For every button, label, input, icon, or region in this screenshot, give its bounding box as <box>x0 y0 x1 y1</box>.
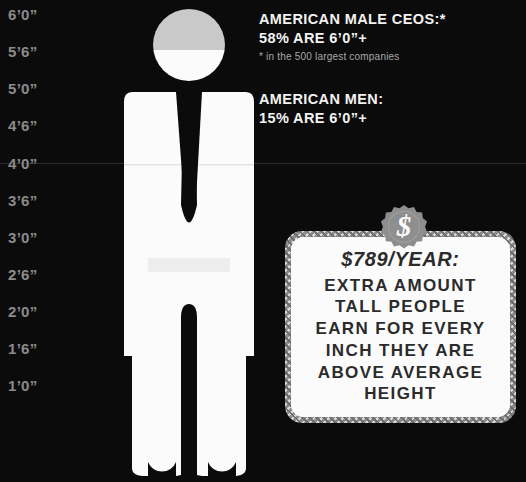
figure-right-foot-notch <box>208 462 236 482</box>
figure-left-arm-cut <box>110 356 132 482</box>
axis-tick-6-0: 6’0” <box>8 7 38 22</box>
axis-tick-4-6: 4’6” <box>8 118 38 133</box>
money-line-2: TALL PEOPLE <box>335 296 466 318</box>
figure-hips <box>124 258 254 272</box>
men-stat-title: AMERICAN MEN: <box>259 89 383 110</box>
money-line-3: EARN FOR EVERY <box>315 318 485 340</box>
axis-tick-5-6: 5’6” <box>8 44 38 59</box>
infographic-root: 6’0” 5’6” 5’0” 4’6” 4’0” 3’6” 3’0” 2’6” … <box>0 0 526 482</box>
figure-necktie <box>176 92 202 216</box>
axis-tick-3-0: 3’0” <box>8 230 38 245</box>
figure-leg-gap-lower <box>181 400 197 482</box>
figure-torso <box>124 92 254 258</box>
axis-tick-5-0: 5’0” <box>8 81 38 96</box>
figure-legs-block <box>132 272 246 474</box>
money-line-1: EXTRA AMOUNT <box>324 275 476 297</box>
figure-left-foot <box>132 440 186 476</box>
axis-tick-3-6: 3’6” <box>8 193 38 208</box>
badge-dollar-glyph: $ <box>396 210 412 242</box>
money-line-4: INCH THEY ARE <box>326 340 476 362</box>
figure-shoulder-gap <box>178 92 200 118</box>
axis-tick-4-0: 4’0” <box>8 156 38 171</box>
ceo-stat-title: AMERICAN MALE CEOS:* <box>259 9 446 30</box>
money-callout-box: $789/YEAR: EXTRA AMOUNT TALL PEOPLE EARN… <box>291 237 510 417</box>
money-line-5: ABOVE AVERAGE <box>318 362 484 384</box>
figure-collar-v <box>176 92 202 125</box>
axis-tick-2-0: 2’0” <box>8 304 38 319</box>
figure-legs-fill <box>132 272 246 462</box>
ceo-stat-value: 58% ARE 6’0”+ <box>259 28 367 49</box>
figure-head <box>150 5 230 95</box>
axis-tick-2-6: 2’6” <box>8 267 38 282</box>
figure-left-arm <box>124 258 148 356</box>
figure-hip-shade <box>124 258 254 272</box>
figure-right-foot <box>192 440 246 476</box>
ceo-stat-footnote: * in the 500 largest companies <box>259 51 400 62</box>
figure-right-arm-cut <box>246 356 270 482</box>
axis-tick-1-0: 1’0” <box>8 378 38 393</box>
figure-torso-shade <box>124 164 254 166</box>
men-stat-value: 15% ARE 6’0”+ <box>259 108 367 129</box>
figure-tie-body <box>181 112 197 223</box>
figure-right-arm <box>230 258 254 356</box>
figure-legs <box>132 272 246 472</box>
figure-left-foot-notch <box>148 462 176 482</box>
figure-leg-gap <box>181 304 197 440</box>
gridline-4ft <box>0 163 526 164</box>
money-line-6: HEIGHT <box>364 383 437 405</box>
axis-tick-1-6: 1’6” <box>8 341 38 356</box>
dollar-badge-icon: $ <box>381 205 427 251</box>
